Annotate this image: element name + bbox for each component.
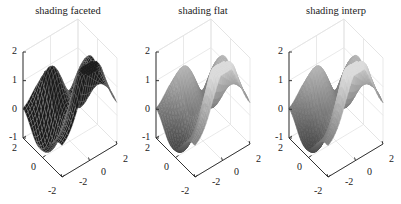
y-tick-label: 0 bbox=[31, 162, 36, 172]
x-tick-label: -2 bbox=[79, 177, 87, 187]
z-tick-label: -1 bbox=[9, 132, 17, 142]
y-tick-label: 2 bbox=[145, 143, 150, 153]
z-tick-label: 1 bbox=[12, 75, 17, 85]
x-tick-label: 0 bbox=[101, 167, 106, 177]
y-tick-label: 2 bbox=[278, 143, 283, 153]
y-tick-label: -2 bbox=[181, 186, 189, 196]
surface-plot bbox=[266, 0, 401, 204]
surface-plot bbox=[0, 0, 133, 204]
z-tick-label: -1 bbox=[142, 132, 150, 142]
x-tick-label: 2 bbox=[389, 154, 394, 164]
z-tick-label: 1 bbox=[145, 75, 150, 85]
subplot-faceted: shading faceted 2 1 0 -1 2 0 -2 -2 0 2 bbox=[0, 0, 133, 204]
x-tick-label: 2 bbox=[256, 154, 261, 164]
x-tick-label: 0 bbox=[234, 167, 239, 177]
surface-plot bbox=[133, 0, 266, 204]
y-tick-label: 0 bbox=[297, 162, 302, 172]
z-tick-label: -1 bbox=[275, 132, 283, 142]
y-tick-label: 2 bbox=[12, 143, 17, 153]
z-tick-label: 0 bbox=[12, 104, 17, 114]
z-tick-label: 2 bbox=[12, 46, 17, 56]
y-tick-label: 0 bbox=[164, 162, 169, 172]
x-tick-label: -2 bbox=[212, 177, 220, 187]
x-tick-label: -2 bbox=[345, 177, 353, 187]
z-tick-label: 0 bbox=[278, 104, 283, 114]
subplot-interp: shading interp 2 1 0 -1 2 0 -2 -2 0 2 bbox=[266, 0, 401, 204]
z-tick-label: 2 bbox=[145, 46, 150, 56]
x-tick-label: 0 bbox=[367, 167, 372, 177]
y-tick-label: -2 bbox=[314, 186, 322, 196]
y-tick-label: -2 bbox=[48, 186, 56, 196]
subplot-flat: shading flat 2 1 0 -1 2 0 -2 -2 0 2 bbox=[133, 0, 266, 204]
z-tick-label: 2 bbox=[278, 46, 283, 56]
x-tick-label: 2 bbox=[123, 154, 128, 164]
z-tick-label: 0 bbox=[145, 104, 150, 114]
z-tick-label: 1 bbox=[278, 75, 283, 85]
